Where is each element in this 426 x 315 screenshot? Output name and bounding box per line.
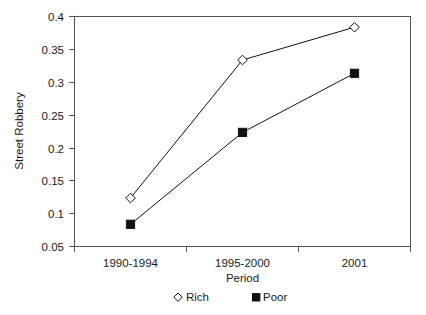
series-poor (126, 69, 358, 228)
x-category-label: 1995-2000 (215, 257, 270, 269)
y-tick-label: 0.2 (48, 143, 64, 155)
filled-square-icon (253, 294, 260, 301)
series-rich-line (131, 27, 355, 198)
series-poor-marker (350, 69, 358, 77)
series-poor-marker (238, 128, 246, 136)
street-robbery-line-chart: 0.4 0.35 0.3 0.25 0.2 0.15 0.1 0.05 Stre… (0, 0, 426, 315)
legend-label-rich: Rich (186, 291, 209, 303)
y-axis-tick-labels: 0.4 0.35 0.3 0.25 0.2 0.15 0.1 0.05 (42, 11, 65, 253)
chart-container: 0.4 0.35 0.3 0.25 0.2 0.15 0.1 0.05 Stre… (0, 0, 426, 315)
x-category-label: 1990-1994 (103, 257, 159, 269)
open-diamond-icon (174, 293, 182, 301)
y-tick-label: 0.05 (42, 241, 64, 253)
legend-item-rich: Rich (174, 291, 209, 303)
y-tick-label: 0.4 (48, 11, 65, 23)
x-axis-ticks (75, 247, 411, 253)
series-poor-marker (126, 220, 134, 228)
series-poor-line (131, 73, 355, 224)
series-rich-marker (350, 22, 360, 32)
x-category-label: 2001 (342, 257, 368, 269)
y-tick-label: 0.1 (48, 208, 64, 220)
x-axis-title: Period (226, 272, 259, 284)
y-tick-label: 0.15 (42, 175, 64, 187)
x-axis-category-labels: 1990-1994 1995-2000 2001 (103, 257, 367, 269)
series-rich (126, 22, 360, 202)
y-tick-label: 0.25 (42, 110, 64, 122)
legend-item-poor: Poor (253, 291, 288, 303)
chart-legend: Rich Poor (174, 291, 288, 303)
legend-label-poor: Poor (263, 291, 287, 303)
y-tick-label: 0.35 (42, 44, 64, 56)
y-axis-ticks (69, 17, 75, 247)
y-tick-label: 0.3 (48, 77, 64, 89)
y-axis-title: Street Robbery (13, 92, 25, 170)
